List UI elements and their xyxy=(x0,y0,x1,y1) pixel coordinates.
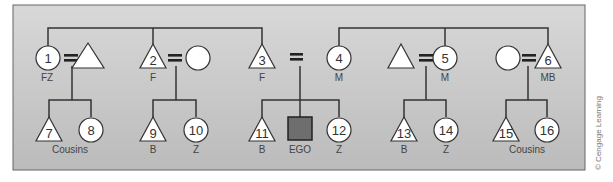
node-9-number: 9 xyxy=(149,126,156,141)
node-1-number: 1 xyxy=(44,51,51,66)
node-7-number: 7 xyxy=(45,126,52,141)
node-12-number: 12 xyxy=(332,123,346,138)
node-2-number: 2 xyxy=(149,53,156,68)
kinship-diagram: 1 2 3 4 5 6 7 8 9 10 11 12 13 14 15 16 F… xyxy=(0,0,613,182)
node-13-number: 13 xyxy=(397,126,411,141)
node-5-label: M xyxy=(441,72,449,83)
spouse-of-2-circle xyxy=(186,46,210,70)
ego-square xyxy=(288,117,312,140)
node-6-number: 6 xyxy=(544,53,551,68)
node-10-label: Z xyxy=(193,144,199,155)
ego-label: EGO xyxy=(289,144,311,155)
node-14-label: Z xyxy=(443,144,449,155)
spouse-of-6-circle xyxy=(496,46,520,70)
copyright-notice: © Cengage Learning xyxy=(594,96,603,170)
node-10-number: 10 xyxy=(189,123,203,138)
node-15-number: 15 xyxy=(499,126,513,141)
node-8-number: 8 xyxy=(87,123,94,138)
node-13-label: B xyxy=(401,144,408,155)
right-cousins-label: Cousins xyxy=(509,144,545,155)
node-3-label: F xyxy=(259,72,265,83)
node-14-number: 14 xyxy=(439,123,453,138)
node-16-number: 16 xyxy=(540,123,554,138)
node-11-label: B xyxy=(259,144,266,155)
node-11-number: 11 xyxy=(255,126,269,141)
node-2-label: F xyxy=(150,72,156,83)
node-5-number: 5 xyxy=(441,51,448,66)
node-1-label: FZ xyxy=(41,72,53,83)
node-9-label: B xyxy=(150,144,157,155)
node-4-label: M xyxy=(335,72,343,83)
node-6-label: MB xyxy=(541,72,556,83)
node-3-number: 3 xyxy=(258,53,265,68)
node-12-label: Z xyxy=(336,144,342,155)
left-cousins-label: Cousins xyxy=(52,144,88,155)
node-4-number: 4 xyxy=(335,51,342,66)
